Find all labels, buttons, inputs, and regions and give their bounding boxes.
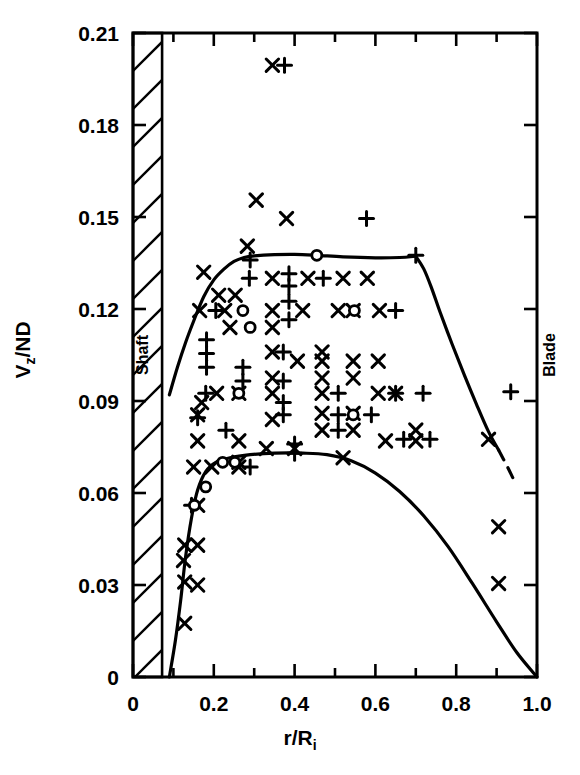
data-point-x (250, 194, 262, 206)
data-point-x (191, 435, 203, 447)
data-point-x (266, 272, 278, 284)
svg-text:Vz/ND: Vz/ND (11, 321, 38, 378)
data-point-+ (236, 374, 250, 388)
data-point-+ (316, 271, 330, 285)
scatter-chart: 00.20.40.60.81.000.030.060.090.120.150.1… (0, 0, 580, 775)
x-tick-label: 1.0 (522, 692, 551, 715)
data-point-x (280, 212, 292, 224)
data-point-+ (200, 360, 214, 374)
annotation-blade: Blade (541, 333, 558, 377)
y-tick-label: 0.21 (78, 22, 119, 45)
data-point-x (187, 461, 199, 473)
data-point-+ (331, 408, 345, 422)
data-point-x (492, 577, 504, 589)
data-point-o (218, 457, 228, 467)
data-markers (177, 58, 517, 629)
y-axis-title-rest: /ND (11, 321, 34, 357)
data-point-x (191, 539, 203, 551)
data-point-x (191, 579, 203, 591)
x-tick-label: 0 (127, 692, 139, 715)
svg-text:r/Ri: r/Ri (283, 726, 316, 753)
data-point-+ (278, 58, 292, 72)
data-point-x (266, 304, 278, 316)
data-point-x (379, 435, 391, 447)
data-point-x (373, 304, 385, 316)
x-axis-title: r/Ri (283, 726, 316, 753)
data-point-o (230, 457, 240, 467)
y-tick-label: 0.09 (78, 390, 119, 413)
upper-boundary-descent (416, 256, 499, 450)
data-point-+ (219, 423, 233, 437)
y-tick-label: 0 (107, 666, 119, 689)
data-point-x (241, 240, 253, 252)
data-point-o (238, 306, 248, 316)
y-axis-title-base: V (11, 365, 34, 379)
data-point-x (291, 355, 303, 367)
data-point-+ (200, 346, 214, 360)
data-point-+ (331, 386, 345, 400)
x-axis-title-base: r/R (283, 726, 312, 749)
data-point-o (312, 250, 322, 260)
x-tick-label: 0.4 (280, 692, 310, 715)
data-point-x (492, 521, 504, 533)
figure-container: 00.20.40.60.81.000.030.060.090.120.150.1… (0, 0, 580, 775)
data-point-x (229, 289, 241, 301)
svg-text:Shaft: Shaft (134, 334, 151, 375)
series-cross-markers (177, 59, 505, 630)
data-point-x (316, 387, 328, 399)
data-point-x (179, 539, 191, 551)
data-point-o (201, 482, 211, 492)
data-point-+ (200, 333, 214, 347)
data-point-x (347, 424, 359, 436)
data-point-x (316, 407, 328, 419)
data-point-x (372, 387, 384, 399)
data-point-x (302, 272, 314, 284)
data-point-o (189, 500, 199, 510)
data-point-x (179, 617, 191, 629)
data-point-o (234, 388, 244, 398)
upper-boundary-dashed-tail (499, 450, 513, 478)
data-point-o (245, 322, 255, 332)
data-point-+ (423, 432, 437, 446)
data-point-x (198, 266, 210, 278)
data-point-+ (504, 385, 518, 399)
x-axis-title-sub: i (313, 737, 317, 753)
data-point-+ (282, 279, 296, 293)
y-tick-label: 0.18 (78, 114, 119, 137)
svg-text:Blade: Blade (541, 333, 558, 377)
annotation-shaft: Shaft (134, 334, 151, 375)
data-point-+ (282, 294, 296, 308)
y-axis-title-sub: z (22, 358, 38, 365)
x-tick-label: 0.2 (199, 692, 228, 715)
data-point-+ (416, 386, 430, 400)
data-point-+ (409, 248, 423, 262)
data-point-+ (360, 212, 374, 226)
data-point-x (372, 355, 384, 367)
data-point-+ (191, 411, 205, 425)
data-point-+ (364, 408, 378, 422)
lower-boundary-curve (169, 453, 537, 677)
data-point-x (347, 372, 359, 384)
y-tick-label: 0.06 (78, 482, 119, 505)
data-point-+ (288, 446, 302, 460)
data-point-+ (236, 360, 250, 374)
data-point-o (348, 410, 358, 420)
data-point-+ (276, 408, 290, 422)
data-point-x (332, 304, 344, 316)
data-point-x (361, 272, 373, 284)
data-point-x (347, 355, 359, 367)
data-point-x (316, 372, 328, 384)
data-point-+ (331, 423, 345, 437)
y-tick-label: 0.12 (78, 298, 119, 321)
data-point-o (349, 306, 359, 316)
data-point-x (266, 321, 278, 333)
data-point-x (212, 289, 224, 301)
shaft-hatched-band (133, 4, 162, 755)
y-tick-label: 0.15 (78, 206, 119, 229)
data-point-+ (242, 271, 256, 285)
y-tick-label: 0.03 (78, 574, 119, 597)
data-point-x (224, 321, 236, 333)
data-point-x (296, 304, 308, 316)
data-point-x (316, 424, 328, 436)
x-tick-label: 0.8 (442, 692, 472, 715)
